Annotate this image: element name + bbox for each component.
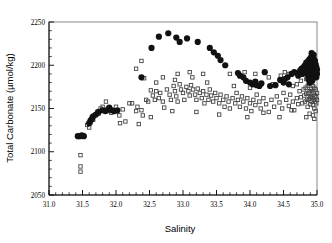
- data-point-filled: [81, 133, 87, 139]
- data-point-filled: [262, 69, 268, 75]
- x-tick-label: 34.0: [244, 201, 257, 209]
- y-tick-label: 2150: [31, 105, 46, 113]
- x-tick-label: 33.0: [177, 201, 190, 209]
- x-tick-label: 33.5: [210, 201, 223, 209]
- chart-canvas: 31.031.532.032.533.033.534.034.535.0 205…: [0, 0, 332, 243]
- y-tick-label: 2250: [31, 19, 46, 27]
- x-tick-label: 31.0: [43, 201, 56, 209]
- x-axis-tick-labels: 31.031.532.032.533.033.534.034.535.0: [43, 201, 324, 209]
- x-tick-label: 31.5: [76, 201, 89, 209]
- data-point-filled: [138, 74, 144, 80]
- data-point-filled: [307, 79, 313, 85]
- data-point-filled: [177, 39, 183, 45]
- x-tick-label: 34.5: [277, 201, 290, 209]
- x-tick-label: 35.0: [311, 201, 324, 209]
- data-point-filled: [165, 30, 171, 36]
- y-axis-title: Total Carbonate (µmol/kg): [4, 53, 15, 163]
- y-tick-label: 2050: [31, 192, 46, 200]
- y-tick-label: 2200: [31, 62, 46, 70]
- x-tick-label: 32.5: [143, 201, 156, 209]
- data-point-filled: [148, 45, 154, 51]
- data-point-filled: [267, 83, 273, 89]
- data-point-filled: [258, 80, 264, 86]
- data-point-filled: [217, 57, 223, 63]
- data-point-filled: [222, 62, 228, 68]
- data-point-filled: [314, 71, 320, 77]
- data-point-filled: [286, 81, 292, 87]
- data-point-filled: [309, 50, 315, 56]
- data-point-filled: [184, 35, 190, 41]
- x-tick-label: 32.0: [110, 201, 123, 209]
- data-point-filled: [114, 107, 120, 113]
- data-point-filled: [156, 34, 162, 40]
- y-tick-label: 2100: [31, 148, 46, 156]
- data-point-filled: [272, 82, 278, 88]
- scatter-plot-figure: 31.031.532.032.533.033.534.034.535.0 205…: [0, 0, 332, 243]
- data-point-filled: [195, 39, 201, 45]
- x-axis-title: Salinity: [165, 223, 196, 234]
